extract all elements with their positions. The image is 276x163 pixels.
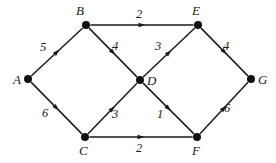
graph-node-c[interactable]	[81, 133, 89, 141]
edge-weight-f-g: 6	[224, 102, 230, 115]
edge-weight-a-b: 5	[40, 41, 46, 54]
graph-edge-a-b	[31, 28, 83, 76]
edge-weight-b-e: 2	[136, 8, 142, 21]
graph-node-d[interactable]	[136, 76, 144, 84]
node-label-c: C	[79, 144, 88, 157]
edge-weight-e-g: 4	[223, 40, 229, 53]
node-label-b: B	[76, 4, 84, 17]
arrowhead-b-e	[139, 23, 146, 28]
edge-weight-c-f: 2	[136, 142, 142, 155]
directed-weighted-graph-figure: ABCDEFG5624323146	[0, 0, 276, 163]
graph-edge-d-f	[143, 83, 194, 134]
edge-weight-a-c: 6	[42, 107, 48, 120]
graph-node-a[interactable]	[24, 75, 32, 83]
graph-edge-c-f	[89, 135, 192, 140]
node-label-a: A	[13, 73, 21, 86]
node-label-d: D	[147, 74, 156, 87]
graph-node-e[interactable]	[194, 21, 202, 29]
graph-node-f[interactable]	[193, 133, 201, 141]
graph-canvas	[0, 0, 276, 163]
graph-edge-a-c	[31, 82, 82, 134]
graph-node-g[interactable]	[247, 75, 255, 83]
graph-edge-d-e	[143, 28, 195, 77]
node-label-e: E	[192, 4, 200, 17]
graph-node-b[interactable]	[82, 21, 90, 29]
node-label-g: G	[258, 73, 267, 86]
edge-weight-c-d: 3	[112, 108, 118, 121]
edge-weight-d-e: 3	[155, 40, 161, 53]
edge-weight-b-d: 4	[112, 40, 118, 53]
edge-weight-d-f: 1	[157, 108, 163, 121]
graph-edge-b-e	[90, 23, 193, 28]
node-label-f: F	[192, 144, 200, 157]
arrowhead-c-f	[138, 135, 145, 140]
